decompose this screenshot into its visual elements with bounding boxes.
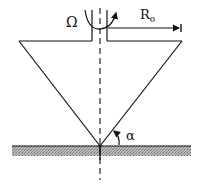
- plate-hatch: [12, 146, 191, 156]
- omega-label: Ω: [66, 14, 78, 30]
- cone-left-side: [19, 41, 100, 146]
- angle-arrow-icon: [114, 131, 119, 145]
- cone-right-side: [100, 41, 182, 146]
- shaft: [92, 10, 107, 41]
- cone-apex: [98, 144, 101, 147]
- radius-label-subscript: o: [150, 14, 155, 24]
- plate: [12, 146, 191, 156]
- alpha-label: α: [126, 128, 135, 143]
- radius-label: Ro: [140, 7, 155, 24]
- cone-plate-diagram: Ω Ro α: [0, 0, 199, 184]
